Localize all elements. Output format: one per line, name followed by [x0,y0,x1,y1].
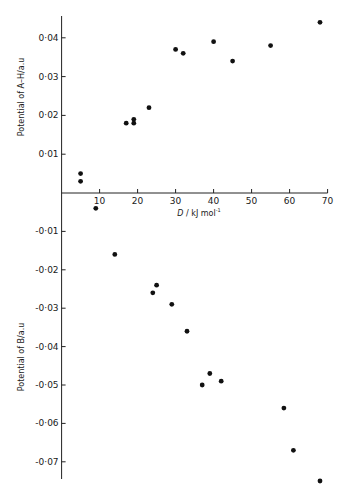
data-points [78,20,322,484]
x-tick-label: 30 [170,196,182,206]
data-point [268,43,273,48]
data-point [150,290,155,295]
y-tick-label: -0·05 [35,380,58,390]
scatter-chart: 102030405060700·010·020·030·04-0·01-0·02… [0,0,351,497]
y-tick-label: 0·02 [39,110,59,120]
data-point [169,302,174,307]
y-tick-label: -0·04 [35,342,59,352]
data-point [207,371,212,376]
data-point [173,47,178,52]
data-point [211,39,216,44]
x-tick-label: 70 [322,196,334,206]
x-tick-label: 60 [284,196,296,206]
data-point [131,121,136,126]
axis-ticks: 102030405060700·010·020·030·04-0·01-0·02… [35,33,333,467]
y-axis-label-top: Potential of A–H/a.u [17,58,26,137]
data-point [230,59,235,64]
y-axis-label-bottom: Potential of B/a.u [17,323,26,392]
data-point [154,283,159,288]
y-tick-label: -0·02 [35,265,58,275]
data-point [282,406,287,411]
y-tick-label: -0·03 [35,303,58,313]
data-point [318,479,323,484]
x-tick-label: 40 [208,196,220,206]
x-axis-label: D / kJ mol-1 [177,207,220,218]
data-point [318,20,323,25]
y-tick-label: -0·01 [35,226,58,236]
axes [62,16,328,479]
data-point [78,179,83,184]
x-tick-label: 20 [132,196,144,206]
y-tick-label: -0·07 [35,457,58,467]
data-point [124,121,129,126]
data-point [112,252,117,257]
y-tick-label: -0·06 [35,418,59,428]
x-tick-label: 10 [94,196,106,206]
data-point [200,383,205,388]
data-point [219,379,224,384]
data-point [291,448,296,453]
y-tick-label: 0·01 [39,149,59,159]
data-point [93,206,98,211]
data-point [147,105,152,110]
data-point [78,171,83,176]
y-tick-label: 0·03 [39,72,59,82]
x-tick-label: 50 [246,196,258,206]
y-tick-label: 0·04 [39,33,59,43]
data-point [185,329,190,334]
data-point [181,51,186,56]
